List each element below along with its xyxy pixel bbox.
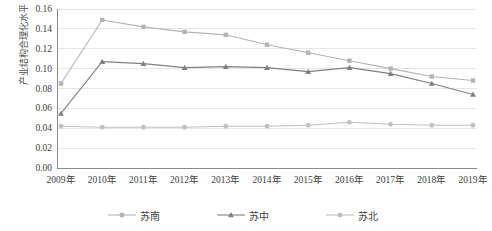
data-point-marker — [429, 123, 434, 128]
plot-area — [57, 9, 477, 168]
legend-marker-icon — [216, 209, 246, 221]
y-tick-label: 0.02 — [26, 143, 52, 153]
legend-item-苏南[interactable]: 苏南 — [107, 205, 160, 225]
legend-marker-icon — [325, 209, 355, 221]
y-axis-tick-labels: 0.160.140.120.100.080.060.040.020.00 — [22, 0, 52, 231]
y-tick-label: 0.12 — [26, 44, 52, 54]
data-point-marker — [141, 125, 146, 130]
y-tick-label: 0.06 — [26, 103, 52, 113]
data-point-marker — [430, 74, 434, 78]
data-point-marker — [338, 213, 343, 218]
data-point-marker — [265, 124, 270, 129]
data-point-marker — [347, 120, 352, 125]
legend-item-苏中[interactable]: 苏中 — [216, 205, 269, 225]
y-tick-label: 0.16 — [26, 4, 52, 14]
chart-svg — [57, 9, 477, 169]
series-苏中 — [58, 59, 476, 116]
data-point-marker — [388, 66, 392, 70]
series-苏南 — [59, 18, 475, 86]
data-point-marker — [100, 125, 105, 130]
data-point-marker — [141, 25, 145, 29]
data-point-marker — [347, 58, 351, 62]
data-point-marker — [100, 18, 104, 22]
data-point-marker — [120, 213, 124, 217]
data-point-marker — [306, 123, 311, 128]
x-axis-tick-labels: 2009年2010年2011年2012年2013年2014年2015年2016年… — [57, 172, 477, 188]
data-point-marker — [182, 125, 187, 130]
y-tick-label: 0.04 — [26, 123, 52, 133]
legend-marker-icon — [107, 209, 137, 221]
y-tick-label: 0.10 — [26, 64, 52, 74]
data-point-marker — [471, 123, 476, 128]
y-tick-label: 0.14 — [26, 24, 52, 34]
series-line — [61, 20, 473, 84]
data-point-marker — [182, 30, 186, 34]
data-point-marker — [223, 124, 228, 129]
data-point-marker — [471, 78, 475, 82]
data-point-marker — [224, 33, 228, 37]
legend-label: 苏南 — [140, 208, 160, 223]
legend-item-苏北[interactable]: 苏北 — [325, 205, 378, 225]
data-point-marker — [306, 51, 310, 55]
data-point-marker — [59, 124, 64, 129]
legend-label: 苏北 — [358, 208, 378, 223]
data-point-marker — [265, 43, 269, 47]
legend-label: 苏中 — [249, 208, 269, 223]
chart-legend: 苏南苏中苏北 — [0, 203, 485, 227]
x-tick-label: 2019年 — [443, 172, 492, 186]
data-point-marker — [388, 122, 393, 127]
data-point-marker — [59, 81, 63, 85]
y-tick-label: 0.08 — [26, 84, 52, 94]
